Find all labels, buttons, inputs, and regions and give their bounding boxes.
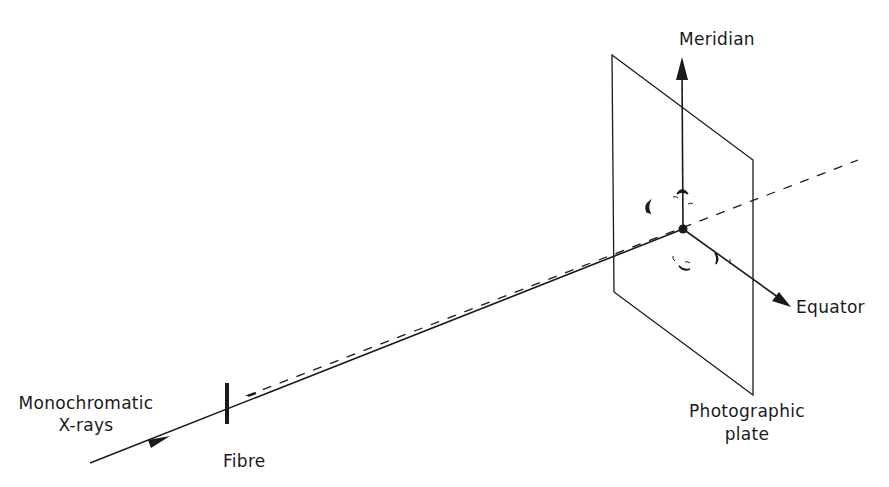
source-label-line1: Monochromatic xyxy=(6,393,166,413)
fibre-label: Fibre xyxy=(223,451,266,471)
diffraction-arcs xyxy=(646,190,730,270)
meridian-label: Meridian xyxy=(679,29,755,49)
incident-beam-arrow-icon xyxy=(148,436,170,448)
equator-label: Equator xyxy=(796,297,865,317)
plate-label-line2: plate xyxy=(672,424,822,444)
fibre-scatter-tick xyxy=(248,393,256,396)
diffracted-beam-dashed xyxy=(246,160,858,396)
meridian-axis xyxy=(682,70,683,229)
meridian-arrow-icon xyxy=(676,57,688,80)
plate-label-line1: Photographic xyxy=(672,401,822,421)
equator-axis xyxy=(683,229,782,300)
source-label-line2: X-rays xyxy=(6,415,166,435)
beam-center-dot xyxy=(679,225,688,234)
fibre-diffraction-diagram: Meridian Equator Monochromatic X-rays Fi… xyxy=(0,0,889,487)
incident-beam xyxy=(90,229,683,463)
